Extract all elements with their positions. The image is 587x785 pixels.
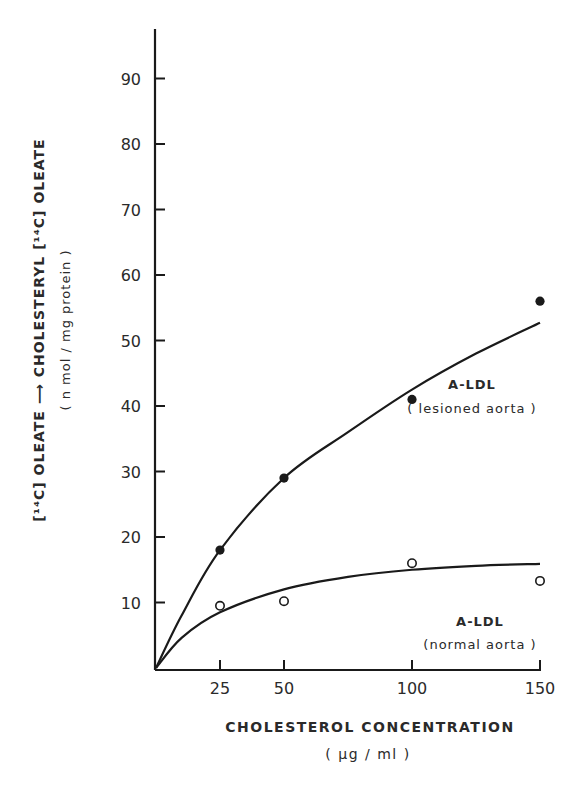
y-axis-ticks: 102030405060708090	[121, 70, 165, 613]
x-axis-unit: ( μg / ml )	[325, 746, 410, 762]
x-axis-title: CHOLESTEROL CONCENTRATION	[225, 719, 514, 735]
lesioned-series-title: A-LDL	[448, 377, 496, 392]
chart-canvas: 102030405060708090 2550100150 A-LDL ( le…	[0, 0, 587, 785]
y-tick-label: 10	[121, 594, 141, 613]
y-tick-label: 60	[121, 266, 141, 285]
y-axis-unit: ( n mol / mg protein )	[58, 250, 73, 411]
y-tick-label: 50	[121, 332, 141, 351]
y-tick-label: 40	[121, 397, 141, 416]
x-tick-label: 50	[274, 679, 294, 698]
filled-circle-marker	[215, 546, 224, 555]
x-tick-label: 25	[210, 679, 230, 698]
y-tick-label: 30	[121, 463, 141, 482]
y-tick-label: 70	[121, 201, 141, 220]
x-tick-label: 150	[525, 679, 556, 698]
normal-series-subtitle: (normal aorta )	[423, 637, 536, 652]
lesioned-series-subtitle: ( lesioned aorta )	[407, 401, 536, 416]
filled-circle-marker	[535, 297, 544, 306]
filled-circle-marker	[279, 473, 288, 482]
y-tick-label: 20	[121, 528, 141, 547]
open-circle-marker	[280, 597, 288, 605]
open-circle-marker	[216, 602, 224, 610]
normal-series-title: A-LDL	[456, 614, 504, 629]
y-tick-label: 80	[121, 135, 141, 154]
x-axis-ticks: 2550100150	[210, 660, 555, 698]
y-tick-label: 90	[121, 70, 141, 89]
open-circle-marker	[536, 577, 544, 585]
x-tick-label: 100	[397, 679, 428, 698]
y-axis-title: [¹⁴C] OLEATE ⟶ CHOLESTERYL [¹⁴C] OLEATE	[31, 138, 47, 521]
open-circle-marker	[408, 559, 416, 567]
